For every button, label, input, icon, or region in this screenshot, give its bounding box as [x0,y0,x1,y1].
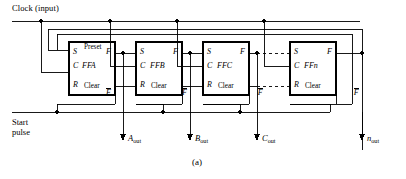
ffa-output-fbar: F [106,89,111,97]
ffb-pin-r: R [140,81,145,89]
output-label-a-out: Aout [128,134,141,143]
ffn-pin-s: S [294,48,298,56]
ffn-output-rail [336,53,362,150]
ffa-name: FFA [82,62,96,70]
ffb-pin-s: S [140,48,144,56]
ffa-pin-c: C [73,62,78,70]
output-label-n-out: nout [367,134,379,143]
ffn-clear-label: Clear [305,83,321,90]
output-drop-lines [123,112,362,138]
link-ffb-ffc [182,53,203,112]
ffb-pin-c: C [140,62,145,70]
ffb-output-fbar: F [182,89,187,97]
output-label-b-out: Bout [195,134,208,143]
clock-input-label: Clock (input) [12,4,59,13]
start-pulse-line2: pulse [12,127,30,137]
ffc-pin-r: R [207,81,212,89]
start-pulse-label: Start pulse [12,117,30,137]
ffb-name: FFB [150,62,165,70]
ffa-pin-s: S [73,48,77,56]
ffa-preset-label: Preset [84,44,102,51]
ffa-output-f: F [106,48,111,56]
ffb-output-f: F [173,48,178,56]
ffn-name: FFn [304,62,318,70]
ffc-output-fbar: F [258,89,263,97]
ffn-pin-r: R [294,81,299,89]
ffa-clear-label: Clear [84,83,100,90]
link-ffa-ffb [115,53,136,112]
ffb-clear-label: Clear [151,83,167,90]
figure-panel: Clock (input) Start pulse S C R Preset C… [0,0,406,179]
ffa-pin-r: R [73,81,78,89]
circuit-schematic [0,0,406,179]
link-ffc-ffn [249,53,290,112]
ffc-output-f: F [240,48,245,56]
ffc-name: FFC [217,62,232,70]
ffn-output-fbar: F [354,89,359,97]
output-arrowheads [120,134,365,141]
ffc-pin-s: S [207,48,211,56]
output-label-c-out: Cout [262,134,276,143]
figure-caption: (a) [192,158,202,167]
start-pulse-line1: Start [12,117,30,127]
ffc-clear-label: Clear [218,83,234,90]
ffc-pin-c: C [207,62,212,70]
start-pulse-bus [12,86,336,112]
ffn-output-f: F [327,48,332,56]
ffn-pin-c: C [294,62,299,70]
